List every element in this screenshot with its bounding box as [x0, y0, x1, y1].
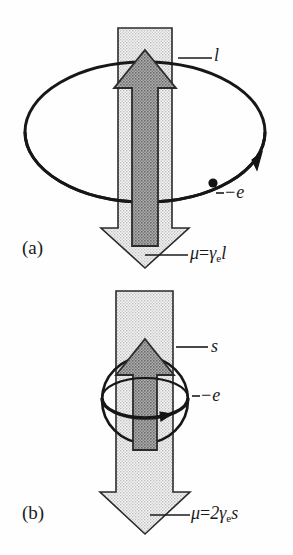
panel-a-graphics — [25, 28, 265, 268]
electron-dot — [208, 178, 217, 187]
figure-canvas — [0, 0, 293, 555]
panel-b-graphics — [100, 291, 208, 534]
physics-figure: l −e μ=γel (a) s −e μ=2γes (b) — [0, 0, 293, 555]
